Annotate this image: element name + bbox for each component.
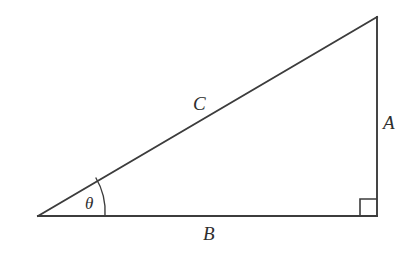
side-b-label: B bbox=[203, 224, 215, 243]
hypotenuse-c-label: C bbox=[193, 94, 206, 113]
theta-angle-label: θ bbox=[85, 195, 93, 212]
right-angle-marker-icon bbox=[360, 199, 377, 216]
hypotenuse-c-line bbox=[38, 17, 377, 216]
side-a-label: A bbox=[383, 113, 395, 132]
triangle-figure bbox=[0, 0, 414, 253]
right-triangle-diagram: A B C θ bbox=[0, 0, 414, 253]
theta-angle-arc bbox=[96, 178, 105, 217]
